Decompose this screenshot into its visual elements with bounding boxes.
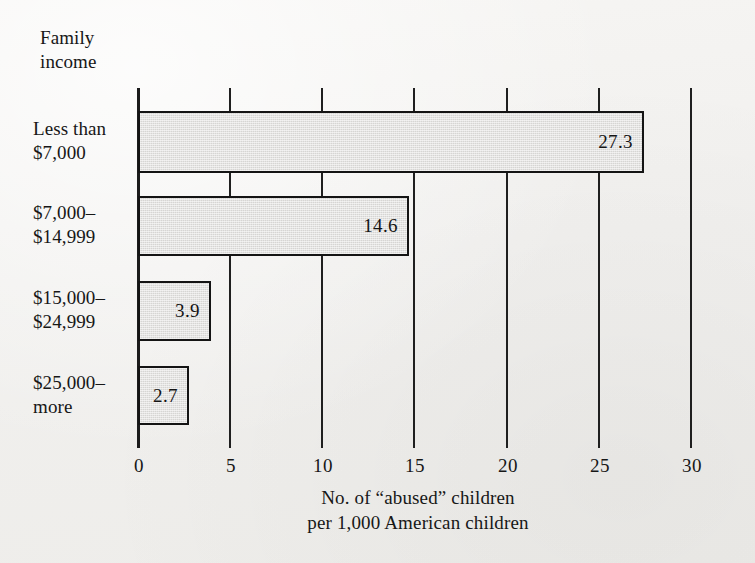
category-label-line-1: $25,000– bbox=[33, 371, 151, 395]
category-label-line-2: $14,999 bbox=[33, 225, 151, 249]
bar-15000-24999[interactable]: 3.9 bbox=[138, 281, 211, 341]
bar-7000-14999[interactable]: 14.6 bbox=[138, 196, 409, 256]
xtick-label-0: 0 bbox=[109, 455, 169, 477]
category-label-less-than-7000: Less than $7,000 bbox=[33, 117, 151, 165]
category-label-line-1: $15,000– bbox=[33, 286, 151, 310]
category-label-line-2: $24,999 bbox=[33, 310, 151, 334]
xtick-label-10: 10 bbox=[293, 455, 353, 477]
gridline-30 bbox=[690, 88, 692, 448]
bar-less-than-7000[interactable]: 27.3 bbox=[138, 111, 644, 173]
bar-25000-more[interactable]: 2.7 bbox=[138, 366, 189, 425]
xtick-label-15: 15 bbox=[385, 455, 445, 477]
y-axis-title-line-2: income bbox=[40, 50, 150, 74]
bar-value-label: 2.7 bbox=[153, 385, 187, 407]
bar-value-label: 27.3 bbox=[598, 131, 642, 153]
category-label-line-2: $7,000 bbox=[33, 141, 151, 165]
x-axis-title-line-2: per 1,000 American children bbox=[138, 511, 698, 536]
bar-value-label: 3.9 bbox=[175, 300, 209, 322]
category-label-line-1: Less than bbox=[33, 117, 151, 141]
category-label-7000-14999: $7,000– $14,999 bbox=[33, 201, 151, 249]
y-axis-title: Family income bbox=[40, 26, 150, 75]
y-axis-title-line-1: Family bbox=[40, 26, 150, 50]
xtick-label-25: 25 bbox=[570, 455, 630, 477]
category-label-line-2: more bbox=[33, 395, 151, 419]
x-axis-title-line-1: No. of “abused” children bbox=[138, 486, 698, 511]
bar-chart: Family income Less than $7,000 $7,000– $… bbox=[0, 0, 755, 563]
x-axis-title: No. of “abused” children per 1,000 Ameri… bbox=[138, 486, 698, 535]
category-label-line-1: $7,000– bbox=[33, 201, 151, 225]
xtick-label-20: 20 bbox=[478, 455, 538, 477]
category-label-25000-more: $25,000– more bbox=[33, 371, 151, 419]
bar-value-label: 14.6 bbox=[363, 215, 407, 237]
category-label-15000-24999: $15,000– $24,999 bbox=[33, 286, 151, 334]
xtick-label-5: 5 bbox=[201, 455, 261, 477]
xtick-label-30: 30 bbox=[662, 455, 722, 477]
